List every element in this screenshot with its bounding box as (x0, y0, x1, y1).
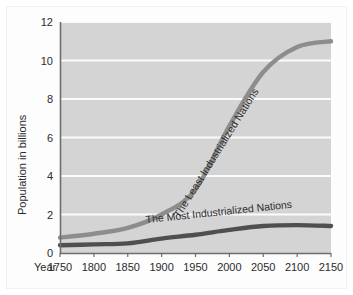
y-tick-label: 10 (41, 55, 53, 67)
y-axis-title: Population in billions (16, 114, 28, 215)
y-tick-label: 0 (47, 247, 53, 259)
x-tick-label: 2000 (217, 261, 241, 273)
x-tick-label: 1850 (116, 261, 140, 273)
x-tick-label: 2050 (251, 261, 275, 273)
y-tick-label: 6 (47, 132, 53, 144)
population-growth-chart: 175018001850190019502000205021002150 024… (0, 0, 353, 295)
x-tick-label: 2150 (319, 261, 343, 273)
y-tick-labels: 024681012 (41, 16, 53, 259)
x-tick-labels: 175018001850190019502000205021002150 (48, 261, 343, 273)
y-tick-label: 8 (47, 93, 53, 105)
x-axis-title: Year (34, 261, 57, 273)
x-tick-label: 1950 (183, 261, 207, 273)
x-tick-label: 2100 (285, 261, 309, 273)
y-tick-label: 4 (47, 170, 53, 182)
x-tick-label: 1900 (149, 261, 173, 273)
y-tick-label: 12 (41, 16, 53, 28)
y-tick-label: 2 (47, 209, 53, 221)
figure-container: 175018001850190019502000205021002150 024… (0, 0, 353, 295)
x-tick-label: 1800 (82, 261, 106, 273)
